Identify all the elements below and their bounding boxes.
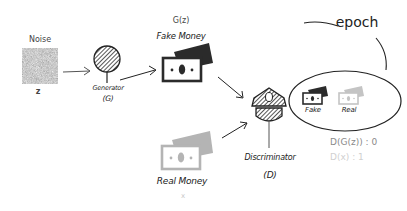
real-money-symbol: x: [181, 193, 185, 200]
epoch-label: epoch: [336, 15, 379, 29]
arrow-real-to-discriminator: [222, 122, 247, 138]
real-money-icon: [162, 131, 213, 169]
real-score: D(x) : 1: [330, 153, 364, 162]
small-real-bill-icon: [339, 86, 364, 104]
discriminator-icon: [252, 88, 286, 148]
real-money-label: Real Money: [157, 177, 208, 186]
fake-money-label: Fake Money: [156, 32, 205, 41]
discriminator-label: Discriminator: [244, 154, 295, 162]
generator-icon: [94, 46, 120, 83]
generator-abbr: (G): [102, 95, 113, 103]
real-label: Real: [342, 107, 357, 114]
arrow-generator-to-fake-money: [120, 66, 156, 80]
noise-label: Noise: [29, 36, 51, 44]
arrow-noise-to-generator: [63, 67, 90, 75]
noise-symbol: z: [36, 88, 41, 96]
fake-label: Fake: [305, 107, 321, 114]
fake-score: D(G(z)) : 0: [330, 138, 377, 147]
fake-money-icon: [163, 43, 213, 81]
fake-money-formula: G(z): [173, 17, 190, 25]
discriminator-abbr: (D): [263, 171, 276, 180]
small-fake-bill-icon: [303, 86, 328, 104]
arrow-fake-to-discriminator: [218, 77, 243, 98]
noise-image: [22, 48, 58, 84]
generator-label: Generator: [92, 85, 123, 92]
